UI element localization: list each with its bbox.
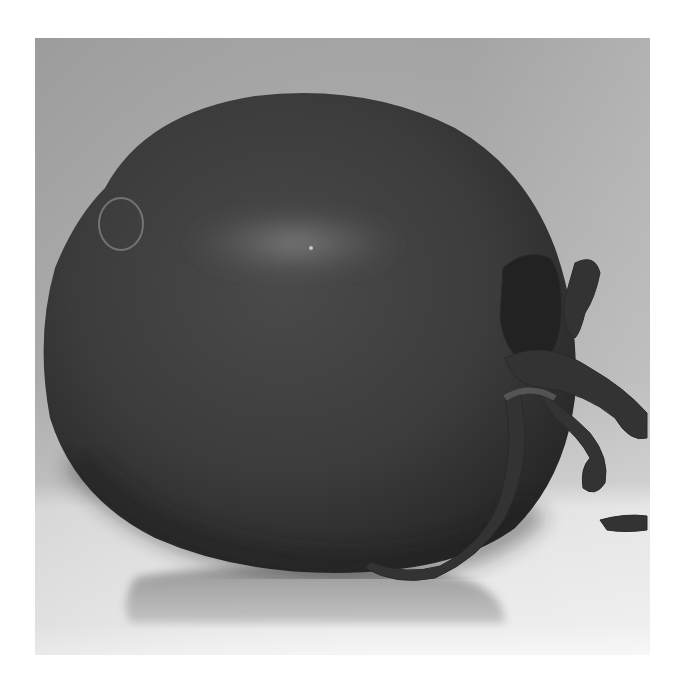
- photo-canvas: [35, 38, 650, 655]
- tomato-photo: [35, 38, 650, 655]
